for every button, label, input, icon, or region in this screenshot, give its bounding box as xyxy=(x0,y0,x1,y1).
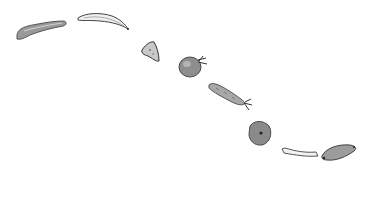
breadstick-drawing xyxy=(282,148,318,156)
carrot-drawing xyxy=(209,84,252,110)
zucchini-drawing xyxy=(17,21,66,39)
food-sketch-scene xyxy=(0,0,372,200)
sweet-potato-drawing xyxy=(322,145,356,160)
onion-slice-drawing xyxy=(249,122,271,146)
ginger-piece-drawing xyxy=(142,42,159,61)
tomato-drawing xyxy=(179,56,207,77)
banana-drawing xyxy=(78,14,129,30)
